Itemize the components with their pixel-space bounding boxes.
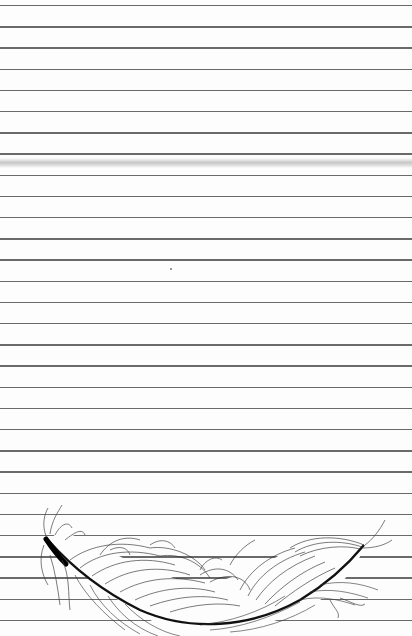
lined-paper bbox=[0, 0, 412, 636]
ruled-line bbox=[0, 153, 412, 154]
ruled-line bbox=[0, 26, 412, 27]
ruled-line bbox=[0, 302, 412, 303]
ruled-line bbox=[0, 281, 412, 282]
ruled-line bbox=[0, 196, 412, 197]
feather-icon bbox=[0, 480, 412, 636]
ruled-line bbox=[0, 69, 412, 70]
ruled-line bbox=[0, 259, 412, 260]
ruled-line bbox=[0, 387, 412, 388]
ruled-line bbox=[0, 5, 412, 6]
ruled-line bbox=[0, 344, 412, 345]
ruled-line bbox=[0, 132, 412, 133]
ruled-line bbox=[0, 323, 412, 324]
ruled-line bbox=[0, 217, 412, 218]
paper-crease bbox=[0, 158, 412, 168]
ruled-line bbox=[0, 90, 412, 91]
ruled-line bbox=[0, 111, 412, 112]
ruled-line bbox=[0, 175, 412, 176]
ink-speck bbox=[170, 268, 172, 270]
ruled-line bbox=[0, 471, 412, 472]
ruled-line bbox=[0, 429, 412, 430]
ruled-line bbox=[0, 450, 412, 451]
ruled-line bbox=[0, 408, 412, 409]
ruled-line bbox=[0, 238, 412, 239]
ruled-line bbox=[0, 47, 412, 48]
ruled-line bbox=[0, 365, 412, 366]
